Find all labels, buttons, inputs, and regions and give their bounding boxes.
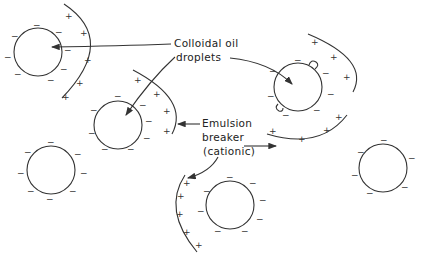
- svg-text:−: −: [214, 226, 222, 236]
- label-breaker-line1: Emulsion: [202, 117, 252, 129]
- svg-text:+: +: [134, 75, 142, 85]
- svg-text:−: −: [27, 186, 35, 196]
- svg-text:+: +: [311, 37, 319, 47]
- oil-droplet-3: − − − − − − −: [267, 55, 335, 120]
- svg-text:−: −: [357, 147, 365, 157]
- svg-text:−: −: [127, 144, 135, 154]
- svg-text:−: −: [327, 89, 335, 99]
- oil-droplet-5: − − − − − − − −: [197, 172, 267, 236]
- svg-text:−: −: [4, 52, 12, 62]
- label-emulsion-breaker: Emulsion breaker (cationic): [202, 117, 255, 157]
- svg-text:−: −: [90, 105, 98, 115]
- svg-text:−: −: [33, 20, 41, 30]
- svg-text:+: +: [176, 209, 184, 219]
- arrow-to-arc-5: [188, 157, 218, 178]
- label-colloidal-oil-droplets: Colloidal oil droplets: [174, 37, 238, 63]
- svg-text:−: −: [47, 75, 55, 85]
- oil-droplet-6: − − − − − −: [351, 135, 416, 198]
- svg-text:−: −: [408, 153, 416, 163]
- svg-text:−: −: [249, 178, 257, 188]
- svg-text:+: +: [62, 92, 70, 102]
- svg-text:−: −: [60, 64, 68, 74]
- svg-text:−: −: [401, 182, 409, 192]
- svg-text:−: −: [24, 147, 32, 157]
- svg-text:+: +: [343, 72, 351, 82]
- svg-text:+: +: [183, 178, 191, 188]
- svg-text:+: +: [323, 125, 331, 135]
- svg-text:−: −: [203, 186, 211, 196]
- svg-text:+: +: [330, 52, 338, 62]
- svg-text:−: −: [11, 31, 19, 41]
- cationic-breaker-arc-3: + + + + + + +: [267, 34, 357, 144]
- svg-text:+: +: [335, 112, 343, 122]
- svg-text:−: −: [322, 68, 330, 78]
- oil-droplet-4: − − − − − − − −: [17, 137, 88, 204]
- svg-text:+: +: [65, 11, 73, 21]
- svg-text:−: −: [256, 214, 264, 224]
- svg-text:+: +: [76, 78, 84, 88]
- svg-text:−: −: [114, 91, 122, 101]
- svg-text:−: −: [55, 27, 63, 37]
- svg-text:−: −: [47, 137, 55, 147]
- svg-text:−: −: [145, 116, 153, 126]
- svg-text:+: +: [84, 55, 92, 65]
- svg-text:−: −: [241, 226, 249, 236]
- svg-text:−: −: [88, 128, 96, 138]
- svg-text:−: −: [259, 195, 267, 205]
- label-breaker-line2: breaker: [202, 131, 245, 143]
- svg-text:−: −: [267, 91, 275, 101]
- svg-text:−: −: [80, 168, 88, 178]
- svg-text:+: +: [80, 28, 88, 38]
- svg-text:−: −: [380, 135, 388, 145]
- svg-text:+: +: [298, 134, 306, 144]
- svg-text:−: −: [226, 172, 234, 182]
- svg-text:−: −: [282, 110, 290, 120]
- oil-droplet-1: − − − − − − − −: [4, 20, 72, 85]
- svg-text:−: −: [14, 69, 22, 79]
- svg-text:−: −: [46, 194, 54, 204]
- svg-text:−: −: [139, 100, 147, 110]
- svg-text:−: −: [101, 144, 109, 154]
- arrow-to-droplet-3: [230, 58, 292, 84]
- svg-text:−: −: [366, 188, 374, 198]
- label-colloidal-line1: Colloidal oil: [174, 37, 238, 49]
- oil-droplet-2: − − − − − − − −: [88, 91, 153, 154]
- label-colloidal-line2: droplets: [176, 51, 221, 63]
- svg-text:−: −: [69, 186, 77, 196]
- svg-text:−: −: [143, 133, 151, 143]
- svg-text:−: −: [197, 206, 205, 216]
- svg-text:+: +: [163, 126, 171, 136]
- svg-text:−: −: [351, 170, 359, 180]
- svg-text:+: +: [177, 191, 185, 201]
- svg-text:+: +: [269, 126, 277, 136]
- svg-text:+: +: [183, 227, 191, 237]
- svg-text:−: −: [294, 55, 302, 65]
- svg-text:−: −: [313, 105, 321, 115]
- label-breaker-line3: (cationic): [203, 145, 255, 157]
- svg-text:+: +: [153, 89, 161, 99]
- svg-text:−: −: [74, 149, 82, 159]
- svg-text:+: +: [163, 106, 171, 116]
- emulsion-breaking-diagram: − − − − − − − − + + + + + − − − − − − − …: [0, 0, 423, 258]
- svg-text:+: +: [195, 240, 203, 250]
- svg-text:−: −: [17, 168, 25, 178]
